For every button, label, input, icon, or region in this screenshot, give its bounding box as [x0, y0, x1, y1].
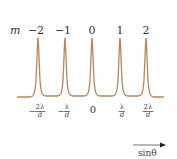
- tick-label-minus-lambda-d: − λ d: [64, 104, 70, 119]
- axis-arrow-head: [160, 143, 166, 148]
- tick-label-lambda-d: λ d: [119, 104, 125, 119]
- tick-label-2lambda-d: 2λ d: [143, 104, 154, 119]
- x-axis-label: sinθ: [138, 149, 157, 158]
- order-label-m-1: −1: [55, 25, 71, 36]
- order-label-m0: 0: [89, 25, 96, 36]
- order-label: m: [10, 25, 20, 36]
- tick-label-zero: 0: [90, 105, 96, 115]
- intensity-curve: [17, 38, 164, 97]
- order-label-m-2: −2: [28, 25, 44, 36]
- order-label-m2: 2: [143, 25, 150, 36]
- order-label-m1: 1: [117, 25, 124, 36]
- tick-label-minus-2lambda-d: − 2λ d: [35, 104, 46, 119]
